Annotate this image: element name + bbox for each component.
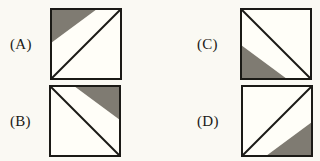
figure-b-square-with-diagonal-and-shaded-corner <box>49 85 121 157</box>
answer-choice-b-label: (B) <box>10 114 31 129</box>
answer-choice-b[interactable]: (B) <box>10 85 121 157</box>
answer-choice-a[interactable]: (A) <box>10 8 122 80</box>
spacer <box>218 44 240 45</box>
answer-choice-d[interactable]: (D) <box>197 85 313 157</box>
answer-choice-c[interactable]: (C) <box>197 8 312 80</box>
answer-choices-panel: (A) (B) (C) (D) <box>0 0 320 161</box>
figure-d-square-with-diagonal-and-shaded-corner <box>241 85 313 157</box>
answer-choice-a-label: (A) <box>10 37 32 52</box>
figure-c-square-with-diagonal-and-shaded-corner <box>240 8 312 80</box>
answer-choice-d-label: (D) <box>197 114 219 129</box>
figure-a-square-with-diagonal-and-shaded-corner <box>50 8 122 80</box>
spacer <box>31 121 49 122</box>
spacer <box>219 121 241 122</box>
spacer <box>32 44 50 45</box>
answer-choice-c-label: (C) <box>197 37 218 52</box>
